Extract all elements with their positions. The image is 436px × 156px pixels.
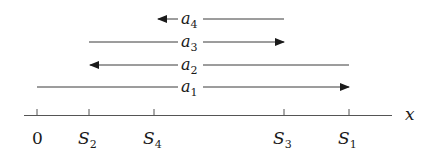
arrow-label-a1: a1: [181, 77, 198, 99]
x-axis: x: [24, 104, 415, 124]
tick-label-s4: S4: [143, 128, 162, 151]
displacement-diagram: a4 a3 a2 a1 x 0: [0, 0, 436, 156]
tick-label-s1: S1: [338, 128, 357, 151]
tick-label-s3: S3: [273, 128, 292, 151]
tick-label-origin: 0: [32, 128, 43, 148]
arrow-a2: a2: [90, 55, 349, 77]
arrow-a1: a1: [37, 77, 349, 99]
arrow-a3: a3: [89, 32, 284, 54]
arrow-label-a4: a4: [181, 9, 198, 31]
arrow-label-a2: a2: [181, 55, 198, 77]
arrow-a4: a4: [158, 9, 284, 31]
tick-label-s2: S2: [78, 128, 97, 151]
tick-origin: 0: [32, 109, 43, 148]
axis-label-x: x: [405, 104, 415, 124]
arrow-label-a3: a3: [181, 32, 198, 54]
